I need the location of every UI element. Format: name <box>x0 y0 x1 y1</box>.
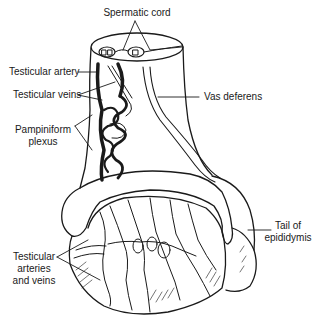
leader-lines <box>57 21 271 280</box>
label-pampiniform-line1: Pampiniform <box>12 124 74 136</box>
label-pampiniform-plexus: Pampiniform plexus <box>12 124 74 148</box>
label-tail-of-epididymis: Tail of epididymis <box>261 220 315 244</box>
epididymis <box>62 171 257 291</box>
label-testicular-veins: Testicular veins <box>13 89 81 101</box>
label-arteries-line2: arteries <box>10 263 58 275</box>
pampiniform-plexus-vessels <box>102 96 126 178</box>
testis <box>69 196 225 314</box>
label-testicular-artery: Testicular artery <box>9 66 80 78</box>
label-tail-line2: epididymis <box>261 232 315 244</box>
label-spermatic-cord: Spermatic cord <box>102 7 172 19</box>
cord-cross-section <box>91 33 183 61</box>
vas-deferens <box>143 67 220 182</box>
shading-hatch <box>76 246 246 302</box>
label-tail-line1: Tail of <box>261 220 315 232</box>
label-vas-deferens: Vas deferens <box>204 91 262 103</box>
label-pampiniform-line2: plexus <box>12 136 74 148</box>
label-arteries-line1: Testicular <box>10 251 58 263</box>
leader-spermatic-cord <box>123 21 182 50</box>
label-testicular-arteries-veins: Testicular arteries and veins <box>10 251 58 287</box>
label-arteries-line3: and veins <box>10 275 58 287</box>
